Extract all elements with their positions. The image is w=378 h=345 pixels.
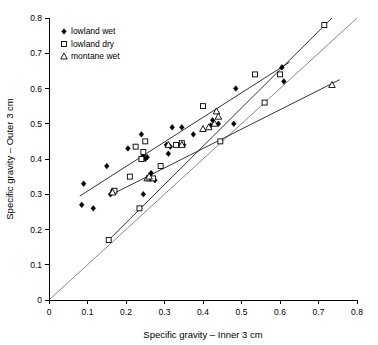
data-point-marker <box>278 72 283 77</box>
x-tick-label: 0.1 <box>82 307 94 317</box>
data-point-marker <box>143 139 148 144</box>
legend-label: montane wet <box>71 51 120 61</box>
data-point-marker <box>218 139 223 144</box>
x-axis-title: Specific gravity – Inner 3 cm <box>143 329 262 340</box>
x-tick-label: 0 <box>47 307 52 317</box>
x-tick-label: 0.6 <box>274 307 286 317</box>
legend-marker-open-square <box>62 42 67 47</box>
data-point-marker <box>322 23 327 28</box>
data-point-marker <box>127 174 132 179</box>
data-point-marker <box>137 206 142 211</box>
y-tick-label: 0.1 <box>30 260 42 270</box>
data-point-marker <box>174 142 179 147</box>
legend-label: lowland wet <box>71 26 116 36</box>
y-tick-label: 0.7 <box>30 48 42 58</box>
x-tick-label: 0.5 <box>236 307 248 317</box>
data-point-marker <box>158 164 163 169</box>
data-point-marker <box>253 72 258 77</box>
scatter-plot: 00.10.20.30.40.50.60.70.8 00.10.20.30.40… <box>0 0 378 345</box>
data-point-marker <box>201 104 206 109</box>
chart-figure: 00.10.20.30.40.50.60.70.8 00.10.20.30.40… <box>0 0 378 345</box>
y-tick-label: 0.3 <box>30 189 42 199</box>
x-tick-label: 0.3 <box>159 307 171 317</box>
data-point-marker <box>141 149 146 154</box>
y-tick-label: 0.2 <box>30 225 42 235</box>
data-point-marker <box>133 144 138 149</box>
y-tick-label: 0.6 <box>30 84 42 94</box>
x-tick-label: 0.2 <box>120 307 132 317</box>
legend-label: lowland dry <box>71 39 115 49</box>
x-tick-label: 0.8 <box>351 307 363 317</box>
x-tick-label: 0.7 <box>313 307 325 317</box>
y-tick-label: 0.5 <box>30 119 42 129</box>
y-tick-label: 0.4 <box>30 154 42 164</box>
x-tick-label: 0.4 <box>197 307 209 317</box>
data-point-marker <box>106 238 111 243</box>
y-tick-label: 0.8 <box>30 13 42 23</box>
y-tick-label: 0 <box>37 295 42 305</box>
data-point-marker <box>262 100 267 105</box>
data-point-marker <box>139 157 144 162</box>
y-axis-title: Specific gravity – Outer 3 cm <box>4 98 15 220</box>
